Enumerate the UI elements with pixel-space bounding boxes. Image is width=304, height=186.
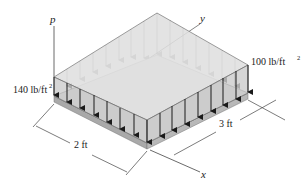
load-right-exponent: 2: [297, 54, 300, 61]
plate-load-diagram: p y x 140 lb/ft 2 100 lb/ft 2 2 ft 3 ft: [0, 0, 304, 186]
x-axis-label: x: [200, 168, 206, 180]
x-axis: [150, 150, 200, 172]
p-axis-label: p: [49, 13, 56, 25]
load-left-exponent: 2: [49, 82, 52, 89]
y-axis-label: y: [199, 12, 205, 24]
dimension-2ft-label: 2 ft: [74, 139, 88, 150]
load-right-label: 100 lb/ft: [251, 56, 285, 67]
dimension-3ft-label: 3 ft: [219, 118, 233, 129]
diagram-root: p y x 140 lb/ft 2 100 lb/ft 2 2 ft 3 ft: [0, 0, 304, 186]
load-left-label: 140 lb/ft: [13, 84, 47, 95]
